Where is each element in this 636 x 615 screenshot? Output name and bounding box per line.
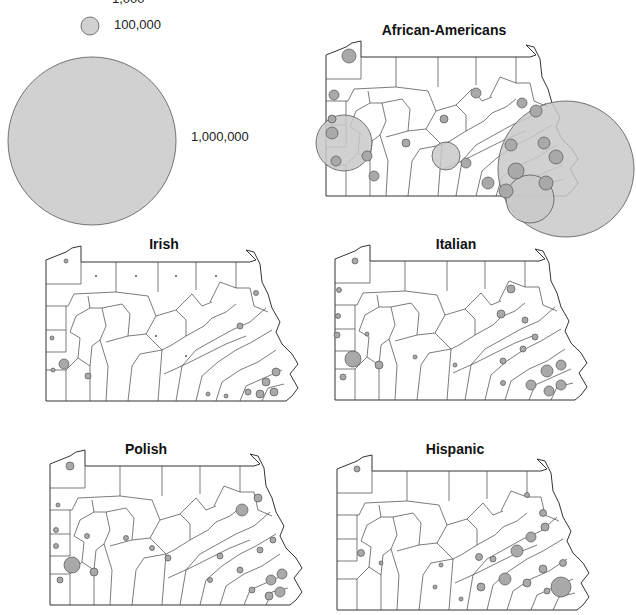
legend-symbols xyxy=(0,0,300,230)
map-african-americans xyxy=(316,41,636,241)
legend-circle-1000000 xyxy=(8,57,176,225)
map-title-african-americans: African-Americans xyxy=(344,22,544,38)
legend-circle-100000 xyxy=(81,17,99,35)
legend-label-1000000: 1,000,000 xyxy=(191,129,249,144)
map-polish xyxy=(40,450,310,610)
map-hispanic xyxy=(327,455,597,615)
map-irish xyxy=(36,246,306,406)
legend-label-100000: 100,000 xyxy=(114,17,161,32)
map-italian xyxy=(325,245,595,405)
